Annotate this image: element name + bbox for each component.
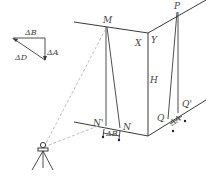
sightline-to-N (44, 126, 98, 147)
inset-label-dB: ΔB (24, 28, 37, 37)
label-H: H (149, 75, 158, 85)
offset-label-dB: ΔB (105, 129, 118, 138)
label-Y: Y (151, 35, 158, 45)
offset-vector-inset: ΔB ΔA ΔD (12, 28, 59, 62)
point-dot (118, 139, 120, 141)
inset-label-dD: ΔD (14, 53, 28, 62)
total-station-icon (32, 142, 53, 170)
point-dot (184, 120, 186, 122)
offset-tick (103, 129, 104, 137)
line-M-N (107, 27, 120, 128)
line-P-Q (168, 12, 177, 119)
tripod-leg (43, 151, 53, 170)
label-N: N (122, 122, 132, 132)
point-dot (102, 136, 104, 138)
offset-tick (119, 131, 120, 139)
label-P: P (173, 1, 181, 11)
tripod-leg (32, 151, 43, 170)
label-N-prime: N' (92, 118, 103, 128)
inset-label-dA: ΔA (46, 48, 59, 57)
instrument-base (38, 148, 48, 151)
label-Q-prime: Q' (182, 99, 192, 109)
survey-diagram: ΔB ΔA ΔD ΔB ΔA M P X Y H N' N Q Q' (0, 0, 209, 182)
label-Q: Q (157, 113, 165, 123)
point-dot (172, 130, 174, 132)
label-X: X (134, 38, 142, 48)
instrument-head (40, 142, 45, 147)
offset-marker-left: ΔB (102, 129, 120, 141)
offset-marker-right: ΔA (167, 114, 186, 132)
label-M: M (102, 15, 113, 25)
